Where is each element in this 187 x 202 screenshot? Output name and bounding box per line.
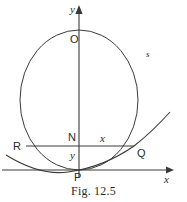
curve-label-s: s — [146, 50, 150, 59]
point-label-n: N — [68, 132, 76, 143]
geometry-diagram — [0, 0, 187, 202]
y-axis-group — [75, 5, 82, 178]
y-axis-label: y — [70, 4, 75, 15]
figure-container: y x O s N x R Q y P Fig. 12.5 — [0, 0, 187, 202]
point-label-p: P — [74, 172, 82, 183]
y-axis-arrowhead-icon — [75, 5, 82, 14]
figure-caption: Fig. 12.5 — [0, 184, 187, 199]
point-label-q: Q — [137, 148, 146, 159]
segment-label-y: y — [70, 150, 75, 161]
segment-label-x: x — [100, 133, 105, 144]
point-label-o: O — [70, 34, 79, 45]
point-label-r: R — [13, 141, 21, 152]
parabola-curve — [6, 112, 170, 173]
